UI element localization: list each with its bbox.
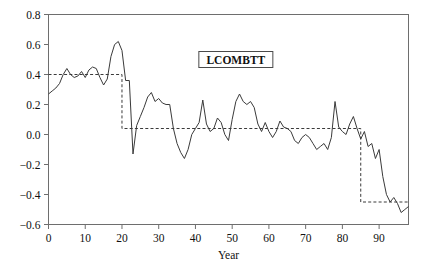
chart-canvas: −0.6−0.4−0.20.00.20.40.60.80102030405060… bbox=[0, 0, 422, 266]
y-axis-tick-label: −0.6 bbox=[20, 219, 41, 231]
x-axis-tick-label: 40 bbox=[190, 232, 202, 244]
y-axis-tick-label: −0.4 bbox=[20, 189, 41, 201]
x-axis-tick-label: 0 bbox=[46, 232, 52, 244]
y-axis-tick-label: 0.0 bbox=[26, 129, 41, 141]
x-axis-tick-label: 80 bbox=[337, 232, 349, 244]
x-axis-tick-label: 90 bbox=[373, 232, 385, 244]
y-axis-tick-label: −0.2 bbox=[20, 159, 41, 171]
y-axis-tick-label: 0.2 bbox=[26, 99, 41, 111]
y-axis-tick-label: 0.4 bbox=[26, 69, 41, 81]
x-axis-title: Year bbox=[218, 249, 239, 261]
chart-figure: −0.6−0.4−0.20.00.20.40.60.80102030405060… bbox=[0, 0, 422, 266]
x-axis-tick-label: 60 bbox=[263, 232, 275, 244]
x-axis-tick-label: 70 bbox=[300, 232, 312, 244]
y-axis-tick-label: 0.6 bbox=[26, 39, 41, 51]
x-axis-tick-label: 50 bbox=[226, 232, 238, 244]
x-axis-tick-label: 30 bbox=[153, 232, 165, 244]
x-axis-tick-label: 20 bbox=[116, 232, 128, 244]
series-label-text: LCOMBTT bbox=[206, 54, 265, 66]
x-axis-tick-label: 10 bbox=[79, 232, 91, 244]
y-axis-tick-label: 0.8 bbox=[26, 9, 41, 21]
